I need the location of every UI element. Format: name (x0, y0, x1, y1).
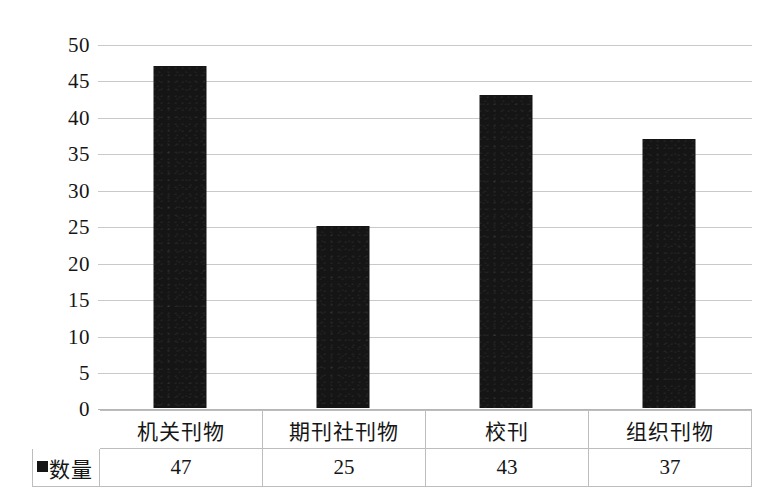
y-axis-tick-label: 15 (32, 290, 90, 311)
y-axis-tick-label: 45 (32, 71, 90, 92)
chart-data-table: 机关刊物 期刊社刊物 校刊 组织刊物 数量 47 25 43 37 (32, 410, 752, 487)
y-axis-tick-label: 10 (32, 327, 90, 348)
bar-series-quantity (98, 0, 752, 410)
y-axis-tick-label: 25 (32, 217, 90, 238)
category-header-cell: 组织刊物 (589, 411, 752, 449)
table-row-categories: 机关刊物 期刊社刊物 校刊 组织刊物 (33, 411, 752, 449)
y-axis-tick-label: 35 (32, 144, 90, 165)
value-cell: 43 (426, 449, 589, 487)
category-header-cell: 校刊 (426, 411, 589, 449)
bar-slot-2 (261, 0, 424, 410)
bar-slot-1 (98, 0, 261, 410)
value-cell: 37 (589, 449, 752, 487)
bar-qikanshekanwu[interactable] (316, 226, 369, 408)
y-axis: 50 45 40 35 30 25 20 15 10 5 0 (32, 0, 90, 410)
y-axis-tick-label: 30 (32, 181, 90, 202)
category-header-cell: 期刊社刊物 (263, 411, 426, 449)
table-row-values: 数量 47 25 43 37 (33, 449, 752, 487)
y-axis-tick-label: 50 (32, 35, 90, 56)
y-axis-tick-label: 20 (32, 254, 90, 275)
bar-jiguankanwu[interactable] (153, 66, 206, 408)
plot-area: 50 45 40 35 30 25 20 15 10 5 0 (0, 0, 783, 410)
bar-slot-4 (587, 0, 750, 410)
category-header-cell: 机关刊物 (100, 411, 263, 449)
value-cell: 47 (100, 449, 263, 487)
value-cell: 25 (263, 449, 426, 487)
bar-chart-with-data-table: 50 45 40 35 30 25 20 15 10 5 0 (0, 0, 783, 504)
y-axis-tick-label: 40 (32, 108, 90, 129)
bar-zuzhikanwu[interactable] (642, 139, 695, 408)
y-axis-tick-label: 5 (32, 363, 90, 384)
legend-label: 数量 (49, 453, 93, 483)
legend-row-header: 数量 (33, 449, 100, 487)
legend-spacer-cell (33, 411, 100, 449)
series-color-swatch-icon (37, 461, 48, 472)
bar-slot-3 (424, 0, 587, 410)
bar-xiaokan[interactable] (479, 95, 532, 408)
